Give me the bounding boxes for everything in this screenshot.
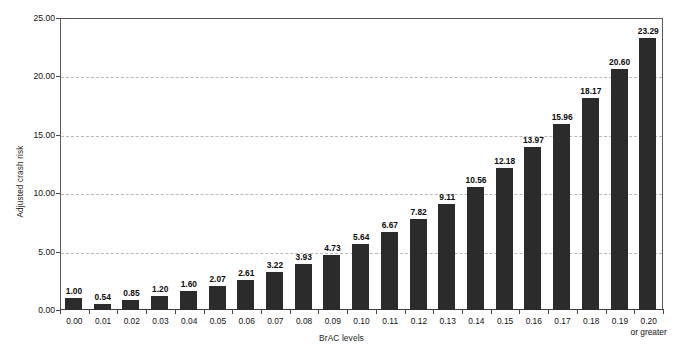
bar-group: 3.22 <box>262 18 288 310</box>
bar <box>151 296 168 310</box>
bar-value-label: 18.17 <box>574 86 608 96</box>
bar-group: 1.20 <box>147 18 173 310</box>
x-tick-mark <box>318 310 319 314</box>
bar-group: 1.60 <box>176 18 202 310</box>
bar-group: 20.60 <box>607 18 633 310</box>
bar <box>65 298 82 310</box>
adjusted-crash-risk-bar-chart: Adjusted crash risk 0.005.0010.0015.0020… <box>0 0 683 363</box>
x-tick-mark <box>519 310 520 314</box>
x-tick-mark <box>376 310 377 314</box>
bar <box>410 219 427 310</box>
y-tick-label: 10.00 <box>21 188 55 198</box>
x-axis-tick-labels: 0.000.010.020.030.040.050.060.070.080.09… <box>60 310 663 350</box>
bar <box>180 291 197 310</box>
bar-group: 7.82 <box>406 18 432 310</box>
bar-group: 0.54 <box>90 18 116 310</box>
bar-group: 9.11 <box>434 18 460 310</box>
bar <box>323 255 340 310</box>
bar-value-label: 12.18 <box>488 156 522 166</box>
x-tick-mark <box>117 310 118 314</box>
bar-value-label: 3.93 <box>287 252 321 262</box>
x-tick-mark <box>347 310 348 314</box>
bar <box>266 272 283 310</box>
x-tick-mark <box>433 310 434 314</box>
bar-group: 23.29 <box>635 18 661 310</box>
bars-container: 1.000.540.851.201.602.072.613.223.934.73… <box>60 18 663 310</box>
x-tick-mark <box>491 310 492 314</box>
y-tick-mark <box>56 76 60 77</box>
bar <box>582 98 599 310</box>
y-tick-mark <box>56 18 60 19</box>
bar-group: 13.97 <box>520 18 546 310</box>
bar-group: 12.18 <box>492 18 518 310</box>
bar <box>611 69 628 310</box>
bar <box>524 147 541 310</box>
x-tick-mark <box>462 310 463 314</box>
bar-group: 0.85 <box>118 18 144 310</box>
bar <box>639 38 656 310</box>
bar-group: 6.67 <box>377 18 403 310</box>
x-axis-title: BrAC levels <box>0 333 683 343</box>
bar-group: 4.73 <box>319 18 345 310</box>
bar <box>122 300 139 310</box>
x-tick-mark <box>663 310 664 314</box>
x-tick-mark <box>60 310 61 314</box>
x-tick-mark <box>606 310 607 314</box>
bar-value-label: 6.67 <box>373 220 407 230</box>
y-tick-label: 5.00 <box>21 247 55 257</box>
y-tick-label: 0.00 <box>21 305 55 315</box>
y-tick-mark <box>56 252 60 253</box>
x-tick-mark <box>175 310 176 314</box>
y-axis-tick-labels: 0.005.0010.0015.0020.0025.00 <box>21 0 55 363</box>
bar-value-label: 4.73 <box>315 243 349 253</box>
bar <box>496 168 513 310</box>
bar <box>209 286 226 310</box>
bar-group: 15.96 <box>549 18 575 310</box>
bar-group: 5.64 <box>348 18 374 310</box>
x-tick-mark <box>405 310 406 314</box>
bar-value-label: 7.82 <box>402 207 436 217</box>
x-tick-mark <box>548 310 549 314</box>
x-tick-mark <box>204 310 205 314</box>
x-tick-mark <box>290 310 291 314</box>
y-tick-mark <box>56 310 60 311</box>
bar-value-label: 15.96 <box>545 112 579 122</box>
y-tick-mark <box>56 193 60 194</box>
bar <box>237 280 254 310</box>
bar-value-label: 9.11 <box>430 192 464 202</box>
x-tick-label: 0.20 <box>632 316 666 327</box>
y-tick-label: 25.00 <box>21 13 55 23</box>
x-tick-mark <box>89 310 90 314</box>
y-tick-label: 20.00 <box>21 71 55 81</box>
bar-group: 18.17 <box>578 18 604 310</box>
bar <box>553 124 570 310</box>
bar-group: 10.56 <box>463 18 489 310</box>
bar <box>295 264 312 310</box>
bar <box>438 204 455 310</box>
bar <box>467 187 484 310</box>
bar-group: 2.07 <box>205 18 231 310</box>
x-tick-mark <box>146 310 147 314</box>
bar <box>352 244 369 310</box>
bar-value-label: 5.64 <box>344 232 378 242</box>
bar-group: 3.93 <box>291 18 317 310</box>
bar-value-label: 23.29 <box>631 26 665 36</box>
bar-group: 2.61 <box>233 18 259 310</box>
y-tick-label: 15.00 <box>21 130 55 140</box>
x-tick-mark <box>232 310 233 314</box>
x-tick-mark <box>577 310 578 314</box>
bar-value-label: 10.56 <box>459 175 493 185</box>
x-tick-mark <box>261 310 262 314</box>
bar-group: 1.00 <box>61 18 87 310</box>
bar <box>381 232 398 310</box>
bar-value-label: 13.97 <box>516 135 550 145</box>
x-tick-mark <box>634 310 635 314</box>
bar-value-label: 20.60 <box>603 57 637 67</box>
y-tick-mark <box>56 135 60 136</box>
